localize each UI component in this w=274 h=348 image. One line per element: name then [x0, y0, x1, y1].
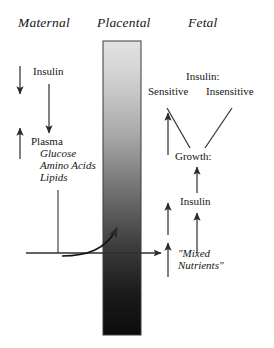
line-growth-to-sensitive — [167, 108, 190, 148]
label-fetal-insulin: Insulin — [180, 196, 211, 208]
label-glucose: Glucose — [31, 148, 96, 160]
mixed-nutrients-block: "Mixed Nutrients" — [178, 248, 224, 272]
label-maternal-insulin: Insulin — [33, 66, 64, 78]
label-lipids: Lipids — [31, 172, 96, 184]
label-fetal-sensitive: Sensitive — [148, 86, 188, 98]
maternal-plasma-block: Plasma Glucose Amino Acids Lipids — [31, 136, 96, 184]
label-fetal-insulin-header: Insulin: — [186, 71, 220, 83]
placental-transfer-diagram: Maternal Placental Fetal — [0, 0, 274, 348]
label-fetal-growth: Growth: — [175, 151, 212, 163]
label-amino-acids: Amino Acids — [31, 160, 96, 172]
label-mixed-nutrients-line2: Nutrients" — [178, 260, 224, 272]
placental-gradient-bar — [103, 41, 141, 335]
label-fetal-insensitive: Insensitive — [206, 86, 254, 98]
line-growth-to-insensitive — [205, 108, 232, 148]
